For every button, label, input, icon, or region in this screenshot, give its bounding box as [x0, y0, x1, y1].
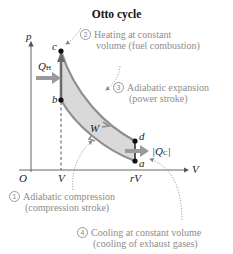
x-tick-v: V	[58, 172, 65, 184]
x-tick-rv: rV	[130, 172, 141, 184]
qc-label: |QC|	[152, 145, 171, 157]
step-4-annotation: 4Cooling at constant volume (cooling of …	[77, 227, 201, 249]
p-axis-label: p	[26, 30, 32, 42]
qh-label: QH	[38, 60, 51, 72]
v-axis-label: V	[192, 163, 199, 175]
origin-label: O	[19, 172, 27, 184]
work-label: W	[90, 122, 99, 134]
qh-arrow	[36, 72, 61, 84]
work-region	[61, 51, 135, 161]
point-c-label: c	[52, 40, 57, 52]
step-2-annotation: 2Heating at constant volume (fuel combus…	[80, 29, 200, 51]
point-a-label: a	[139, 157, 145, 169]
step-1-annotation: 1Adiabatic compression (compression stro…	[9, 191, 115, 213]
point-b-label: b	[52, 93, 58, 105]
point-d-label: d	[139, 130, 145, 142]
step-3-annotation: 3Adiabatic expansion (power stroke)	[113, 82, 209, 104]
